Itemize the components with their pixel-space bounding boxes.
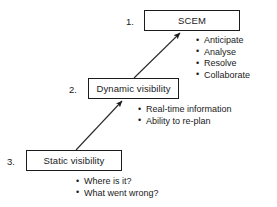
list-item: Ability to re-plan (138, 116, 232, 128)
box-dynamic-visibility-label: Dynamic visibility (96, 83, 170, 94)
box-static-visibility-label: Static visibility (44, 155, 105, 166)
step-number-1: 1. (126, 17, 134, 27)
list-item: Where is it? (76, 176, 159, 188)
bullet-list-scem: Anticipate Analyse Resolve Collaborate (196, 35, 250, 81)
step-number-2: 2. (69, 85, 77, 95)
step-number-3: 3. (7, 157, 15, 167)
box-scem-label: SCEM (178, 15, 206, 26)
box-dynamic-visibility: Dynamic visibility (88, 78, 179, 99)
list-item: What went wrong? (76, 188, 159, 200)
arrow-static-to-dynamic (76, 101, 122, 150)
bullet-list-static-visibility: Where is it? What went wrong? (76, 176, 159, 199)
list-item: Resolve (196, 58, 250, 70)
list-item: Anticipate (196, 35, 250, 47)
box-static-visibility: Static visibility (26, 150, 122, 171)
box-scem: SCEM (144, 10, 240, 31)
arrow-dynamic-to-scem (134, 33, 180, 78)
bullet-list-dynamic-visibility: Real-time information Ability to re-plan (138, 104, 232, 127)
maturity-staircase-diagram: 1. SCEM Anticipate Analyse Resolve Colla… (0, 0, 277, 207)
list-item: Analyse (196, 47, 250, 59)
list-item: Collaborate (196, 70, 250, 82)
list-item: Real-time information (138, 104, 232, 116)
